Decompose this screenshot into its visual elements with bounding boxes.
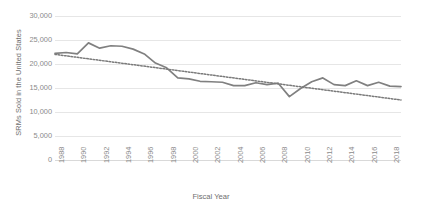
x-tick-label: 1988 bbox=[58, 147, 65, 163]
trendline bbox=[55, 54, 401, 100]
x-axis-ticks: 1988199019921994199619982000200220042006… bbox=[0, 163, 422, 193]
x-tick-label: 2018 bbox=[393, 147, 400, 163]
x-tick-label: 2002 bbox=[214, 147, 221, 163]
x-tick-label: 1994 bbox=[125, 147, 132, 163]
y-tick-label: 10,000 bbox=[6, 108, 52, 115]
line-chart: SRMs Sold in the United States 30,00025,… bbox=[0, 0, 422, 208]
plot-area bbox=[55, 16, 401, 160]
x-tick-label: 2006 bbox=[259, 147, 266, 163]
data-series-line bbox=[55, 43, 401, 97]
x-tick-label: 1990 bbox=[80, 147, 87, 163]
x-tick-label: 2016 bbox=[371, 147, 378, 163]
series-layer bbox=[55, 16, 401, 160]
x-tick-label: 1992 bbox=[103, 147, 110, 163]
y-tick-label: 25,000 bbox=[6, 36, 52, 43]
x-tick-label: 1996 bbox=[147, 147, 154, 163]
x-tick-label: 2008 bbox=[281, 147, 288, 163]
x-tick-label: 2014 bbox=[348, 147, 355, 163]
x-tick-label: 2010 bbox=[304, 147, 311, 163]
y-tick-label: 20,000 bbox=[6, 60, 52, 67]
y-tick-label: 15,000 bbox=[6, 84, 52, 91]
x-tick-label: 2000 bbox=[192, 147, 199, 163]
x-tick-label: 1998 bbox=[170, 147, 177, 163]
y-tick-label: 30,000 bbox=[6, 12, 52, 19]
x-tick-label: 2004 bbox=[237, 147, 244, 163]
x-tick-label: 2012 bbox=[326, 147, 333, 163]
y-tick-label: 5,000 bbox=[6, 132, 52, 139]
x-axis-title: Fiscal Year bbox=[0, 192, 422, 201]
